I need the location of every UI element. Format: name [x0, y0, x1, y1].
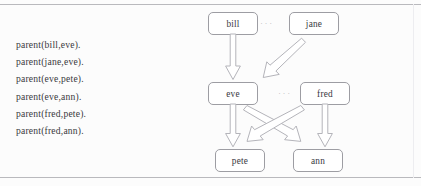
node-ann: ann	[293, 149, 343, 172]
arrow-bill-to-eve	[225, 34, 241, 81]
fact-line: parent(bill,eve).	[16, 36, 166, 53]
prolog-facts-block: parent(bill,eve). parent(jane,eve). pare…	[16, 36, 166, 139]
arrow-eve-to-pete	[225, 104, 241, 148]
fact-line: parent(jane,eve).	[16, 53, 166, 70]
node-pete: pete	[215, 149, 265, 172]
figure-container: parent(bill,eve). parent(jane,eve). pare…	[0, 0, 421, 186]
fact-line: parent(fred,pete).	[16, 105, 166, 122]
arrow-jane-to-eve	[258, 36, 306, 82]
node-eve: eve	[208, 82, 258, 105]
ellipsis-top-icon: ···	[260, 18, 274, 28]
node-bill: bill	[208, 12, 258, 35]
fact-line: parent(eve,pete).	[16, 70, 166, 87]
node-fred: fred	[300, 82, 350, 105]
family-tree-diagram: bill jane eve fred pete ann ··· ···	[196, 6, 416, 178]
fact-line: parent(fred,ann).	[16, 122, 166, 139]
node-jane: jane	[289, 12, 339, 35]
ellipsis-middle-icon: ···	[278, 88, 292, 98]
arrow-fred-to-ann	[317, 104, 333, 148]
fact-line: parent(eve,ann).	[16, 88, 166, 105]
top-rule	[0, 4, 421, 5]
arrow-fred-to-pete	[243, 105, 305, 148]
